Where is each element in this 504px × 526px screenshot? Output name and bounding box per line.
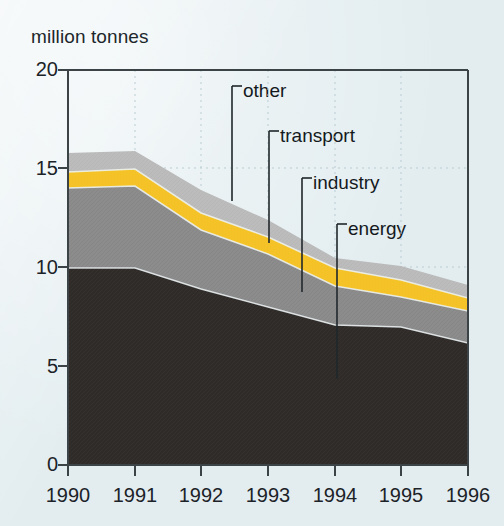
stacked-area-chart: million tonnes 20 15 10 5 0 1990 1991 19… [0,0,504,526]
area-stack [68,151,468,465]
chart-canvas [0,0,504,526]
